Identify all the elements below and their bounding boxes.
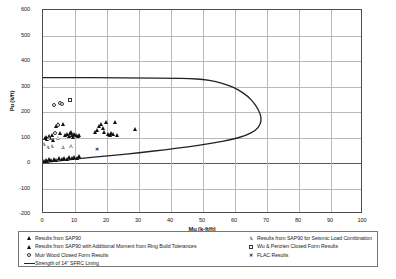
plot-area: ✕	[42, 9, 362, 213]
legend-column-left: Results from SAP90Results from SAP90 wit…	[23, 234, 241, 268]
x-tick-label: 0	[29, 217, 55, 223]
data-point	[50, 144, 54, 148]
y-tick-label: 300	[0, 83, 30, 89]
data-point	[56, 123, 60, 127]
legend-marker-x-icon: ✕	[249, 253, 254, 258]
data-point	[133, 127, 137, 131]
y-tick-label: 500	[0, 32, 30, 38]
legend-item: Results from SAP90 with Additional Momen…	[23, 243, 241, 251]
data-point	[61, 145, 65, 149]
legend-marker-triangle-filled-icon	[27, 245, 31, 249]
data-point	[95, 128, 99, 132]
legend-symbol-circle-open	[23, 251, 35, 259]
legend-marker-square-open-icon	[249, 245, 253, 249]
x-tick-label: 60	[221, 217, 247, 223]
y-tick-label: -200	[0, 210, 30, 216]
y-axis-label: Pu (k/ft)	[9, 71, 15, 131]
legend-item: Results from SAP90	[23, 234, 241, 242]
legend-label: Strength of 14" SFRC Lining	[35, 260, 99, 267]
legend-item: Results from SAP90 for Seismic Load Comb…	[245, 234, 396, 242]
interaction-diagram-figure: Pu (k/ft) ✕ -200-1000100200300400500600 …	[0, 0, 396, 279]
x-tick-label: 10	[61, 217, 87, 223]
data-point	[69, 144, 73, 148]
legend-marker-triangle-filled-icon	[27, 236, 31, 240]
legend-line-swatch	[24, 263, 35, 264]
data-point	[47, 136, 51, 140]
legend-symbol-square-open	[245, 243, 257, 251]
legend-label: Results from SAP90 with Additional Momen…	[35, 243, 196, 250]
y-tick-label: 0	[0, 159, 30, 165]
legend-item: Muir Wood Closed Form Results	[23, 251, 241, 259]
data-point	[104, 120, 108, 124]
data-point	[51, 138, 55, 142]
legend-marker-circle-open-icon	[27, 253, 31, 257]
legend-label: Results from SAP90 for Seismic Load Comb…	[257, 235, 372, 242]
data-point	[115, 133, 119, 137]
legend-symbol-triangle-filled	[23, 234, 35, 242]
data-point	[68, 98, 72, 102]
y-tick-label: 200	[0, 108, 30, 114]
legend-symbol-triangle-filled	[23, 243, 35, 251]
y-tick-label: 100	[0, 134, 30, 140]
x-tick-label: 80	[285, 217, 311, 223]
data-point	[113, 120, 117, 124]
legend-item: ✕FLAC Results	[245, 251, 396, 259]
legend-symbol-triangle-open	[245, 234, 257, 242]
data-point	[77, 154, 81, 158]
data-point	[77, 133, 81, 137]
x-tick-label: 90	[317, 217, 343, 223]
legend: Results from SAP90Results from SAP90 wit…	[18, 231, 378, 267]
legend-label: Results from SAP90	[35, 235, 81, 242]
data-point	[53, 131, 57, 135]
legend-item: Strength of 14" SFRC Lining	[23, 260, 241, 268]
x-tick-label: 50	[189, 217, 215, 223]
data-point: ✕	[95, 147, 100, 152]
y-tick-label: 600	[0, 6, 30, 12]
data-points-layer: ✕	[43, 10, 363, 214]
x-tick-label: 100	[349, 217, 375, 223]
data-point	[52, 103, 56, 107]
legend-column-right: Results from SAP90 for Seismic Load Comb…	[245, 234, 396, 260]
legend-label: Wu & Penzien Closed Form Results	[257, 243, 338, 250]
data-point	[61, 122, 65, 126]
legend-item: Wu & Penzien Closed Form Results	[245, 243, 396, 251]
legend-symbol-x: ✕	[245, 251, 257, 259]
y-tick-label: 400	[0, 57, 30, 63]
legend-label: FLAC Results	[257, 252, 288, 259]
legend-label: Muir Wood Closed Form Results	[35, 252, 108, 259]
x-tick-label: 30	[125, 217, 151, 223]
y-tick-label: -100	[0, 185, 30, 191]
legend-symbol-line	[23, 260, 35, 268]
x-tick-label: 70	[253, 217, 279, 223]
x-tick-label: 20	[93, 217, 119, 223]
data-point	[58, 131, 62, 135]
data-point	[60, 102, 64, 106]
x-tick-label: 40	[157, 217, 183, 223]
legend-marker-triangle-open-icon	[249, 236, 253, 240]
data-point	[56, 136, 60, 140]
